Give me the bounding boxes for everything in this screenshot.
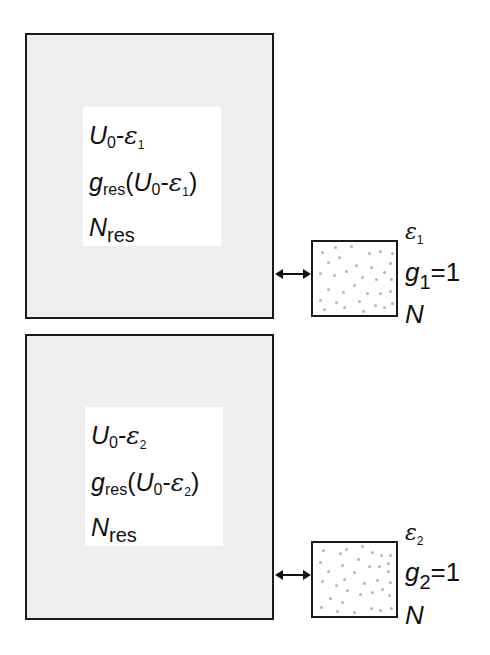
particle-dot	[383, 306, 386, 309]
reservoir-label-2: U0-ε2 gres(U0-ε2) Nres	[85, 407, 223, 546]
particle-dot	[333, 274, 336, 277]
particle-dot	[371, 591, 374, 594]
particle-dot	[321, 251, 324, 254]
particle-dot	[320, 606, 323, 609]
particle-dot	[353, 571, 356, 574]
particle-dot	[368, 565, 371, 568]
system-particles-1: N	[405, 301, 424, 327]
particle-dot	[345, 548, 348, 551]
particle-dot	[362, 310, 365, 313]
system-degeneracy-1: g1=1	[405, 259, 460, 285]
particle-dot	[380, 554, 383, 557]
particle-dot	[353, 611, 356, 614]
particle-dot	[334, 246, 337, 249]
particle-dot	[338, 256, 341, 259]
system-energy-1: ε1	[405, 221, 424, 243]
particle-dot	[355, 264, 358, 267]
system-particles-2: N	[405, 602, 424, 628]
particle-dot	[387, 562, 390, 565]
particle-dot	[361, 276, 364, 279]
particle-dot	[381, 588, 384, 591]
particle-dot	[363, 582, 366, 585]
particle-dot	[342, 291, 345, 294]
particle-dot	[327, 288, 330, 291]
system-box-2	[311, 541, 398, 618]
particle-dot	[391, 252, 394, 255]
particle-dot	[368, 252, 371, 255]
particle-dot	[391, 302, 394, 305]
reservoir-box-1: U0-ε1 gres(U0-ε1) Nres	[25, 33, 274, 319]
particle-dot	[390, 607, 393, 610]
particle-dot	[374, 304, 377, 307]
particle-dot	[375, 278, 378, 281]
system-box-1	[311, 240, 398, 317]
particle-dot	[319, 299, 322, 302]
particle-dot	[366, 292, 369, 295]
particle-dot	[319, 272, 322, 275]
particle-dot	[353, 284, 356, 287]
particle-dot	[359, 593, 362, 596]
particle-dot	[389, 581, 392, 584]
particle-dot	[319, 561, 322, 564]
particle-dot	[379, 292, 382, 295]
reservoir-degeneracy-2: gres(U0-ε2)	[91, 470, 199, 495]
particle-dot	[371, 551, 374, 554]
particle-dot	[376, 579, 379, 582]
particle-dot	[323, 308, 326, 311]
particle-dot	[357, 558, 360, 561]
particle-dot	[345, 270, 348, 273]
exchange-arrow-1	[275, 268, 311, 280]
particle-dot	[350, 245, 353, 248]
particle-dot	[327, 261, 330, 264]
particle-dot	[389, 262, 392, 265]
particle-dot	[370, 607, 373, 610]
particle-dot	[329, 597, 332, 600]
particle-dot	[336, 610, 339, 613]
exchange-arrow-2	[275, 569, 311, 581]
reservoir-label-1: U0-ε1 gres(U0-ε1) Nres	[83, 107, 221, 246]
system-energy-2: ε2	[405, 522, 424, 544]
system-degeneracy-2: g2=1	[405, 559, 460, 585]
particle-dot	[339, 552, 342, 555]
particle-dot	[387, 570, 390, 573]
particle-dot	[389, 554, 392, 557]
particle-dot	[379, 609, 382, 612]
reservoir-particles-2: Nres	[91, 515, 137, 540]
reservoir-box-2: U0-ε2 gres(U0-ε2) Nres	[25, 334, 274, 620]
particle-dot	[335, 301, 338, 304]
particle-dot	[389, 290, 392, 293]
particle-dot	[322, 549, 325, 552]
particle-dot	[343, 578, 346, 581]
reservoir-degeneracy-1: gres(U0-ε1)	[89, 170, 197, 195]
particle-dot	[388, 594, 391, 597]
particle-dot	[361, 545, 364, 548]
particle-dot	[341, 564, 344, 567]
particle-dot	[341, 601, 344, 604]
particle-dot	[379, 250, 382, 253]
reservoir-energy-2: U0-ε2	[91, 423, 146, 448]
particle-dot	[378, 565, 381, 568]
reservoir-energy-1: U0-ε1	[89, 123, 144, 148]
particle-dot	[383, 271, 386, 274]
particle-dot	[327, 570, 330, 573]
particle-dot	[346, 589, 349, 592]
particle-dot	[390, 278, 393, 281]
particle-dot	[358, 300, 361, 303]
particle-dot	[343, 306, 346, 309]
reservoir-particles-1: Nres	[89, 215, 135, 240]
particle-dot	[370, 266, 373, 269]
particle-dot	[335, 584, 338, 587]
particle-dot	[321, 580, 324, 583]
